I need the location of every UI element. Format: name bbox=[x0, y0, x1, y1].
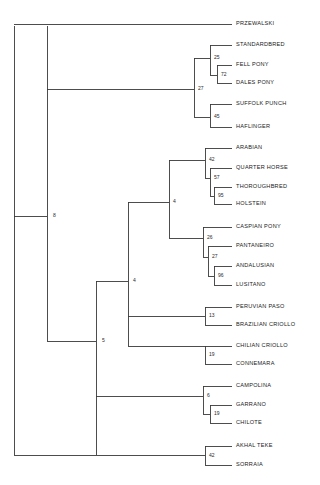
support-value-thoroughbred-holstein: 95 bbox=[218, 192, 224, 198]
support-value-arabian-quarterhorse-clade: 42 bbox=[209, 156, 215, 162]
taxon-label-dales-pony: DALES PONY bbox=[236, 79, 274, 85]
taxon-label-fell-pony: FELL PONY bbox=[236, 61, 269, 67]
taxon-label-brazilian-criollo: BRAZILIAN CRIOLLO bbox=[236, 321, 296, 327]
support-value-campolina-garrano-chilote: 6 bbox=[207, 392, 210, 398]
support-value-major-ingroup-node: 8 bbox=[53, 212, 56, 218]
support-value-chiliancriollo-connemara: 19 bbox=[209, 351, 215, 357]
taxon-label-chilote: CHILOTE bbox=[236, 419, 262, 425]
taxon-label-holstein: HOLSTEIN bbox=[236, 200, 266, 206]
taxon-label-thoroughbred: THOROUGHBRED bbox=[236, 183, 287, 189]
tree-canvas: 257227454257952627961319619428445 PRZEWA… bbox=[0, 0, 320, 485]
taxon-label-andalusian: ANDALUSIAN bbox=[236, 262, 274, 268]
support-value-standardbred-fellpony-dalespony: 25 bbox=[214, 54, 220, 60]
taxon-label-garrano: GARRANO bbox=[236, 401, 266, 407]
taxon-label-sorraia: SORRAIA bbox=[236, 461, 263, 467]
taxon-label-lusitano: LUSITANO bbox=[236, 281, 266, 287]
taxon-label-peruvian-paso: PERUVIAN PASO bbox=[236, 303, 285, 309]
taxon-label-quarter-horse: QUARTER HORSE bbox=[236, 164, 288, 170]
support-value-standardbred-group-plus-draft: 27 bbox=[198, 85, 204, 91]
taxon-label-przewalski: PRZEWALSKI bbox=[236, 20, 275, 26]
support-value-fellpony-dalespony: 72 bbox=[221, 71, 227, 77]
support-value-mid-clade-node: 4 bbox=[133, 277, 136, 283]
taxon-labels-group: PRZEWALSKISTANDARDBREDFELL PONYDALES PON… bbox=[236, 20, 296, 467]
taxon-label-caspian-pony: CASPIAN PONY bbox=[236, 223, 281, 229]
support-value-caspianpony-iberian-clade: 26 bbox=[207, 234, 213, 240]
support-value-quarterhorse-thoroughbred-holstein: 57 bbox=[214, 174, 220, 180]
taxon-label-suffolk-punch: SUFFOLK PUNCH bbox=[236, 100, 287, 106]
taxon-label-arabian: ARABIAN bbox=[236, 144, 262, 150]
support-values-group: 257227454257952627961319619428445 bbox=[53, 54, 227, 458]
support-value-peruvianpaso-braziliancriollo: 13 bbox=[209, 312, 215, 318]
support-value-arabian-caspian-clade: 4 bbox=[173, 198, 176, 204]
support-value-garrano-chilote: 19 bbox=[214, 410, 220, 416]
taxon-label-connemara: CONNEMARA bbox=[236, 360, 275, 366]
phylogenetic-tree-figure: 257227454257952627961319619428445 PRZEWA… bbox=[0, 0, 320, 485]
taxon-label-campolina: CAMPOLINA bbox=[236, 382, 271, 388]
support-value-lower-clade-node: 5 bbox=[102, 337, 105, 343]
taxon-label-haflinger: HAFLINGER bbox=[236, 123, 270, 129]
support-value-pantaneiro-andalusian-lusitano: 27 bbox=[212, 253, 218, 259]
taxon-label-pantaneiro: PANTANEIRO bbox=[236, 242, 274, 248]
taxon-label-akhal-teke: AKHAL TEKE bbox=[236, 442, 273, 448]
support-value-suffolkpunch-haflinger: 45 bbox=[214, 113, 220, 119]
taxon-label-chilian-criollo: CHILIAN CRIOLLO bbox=[236, 342, 288, 348]
support-value-akhalteke-sorraia: 42 bbox=[209, 452, 215, 458]
taxon-label-standardbred: STANDARDBRED bbox=[236, 41, 285, 47]
support-value-andalusian-lusitano: 96 bbox=[218, 272, 224, 278]
